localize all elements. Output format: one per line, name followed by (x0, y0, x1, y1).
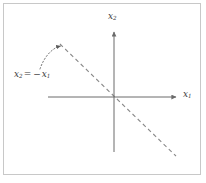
figure-canvas: x2 x1 x2=−x1 (0, 0, 206, 183)
plot-area (0, 0, 206, 183)
annotation-arrow (40, 46, 61, 69)
x2-axis-label: x2 (108, 12, 117, 22)
equation-sign: − (32, 69, 42, 79)
reflection-line (60, 44, 176, 156)
equation-operator: = (23, 69, 33, 79)
x2-axis-label-subscript: 2 (113, 15, 117, 21)
line-equation-label: x2=−x1 (14, 70, 50, 80)
x1-axis-label-subscript: 1 (188, 93, 192, 99)
equation-right-subscript: 1 (47, 73, 51, 79)
x1-axis-label: x1 (183, 90, 192, 100)
